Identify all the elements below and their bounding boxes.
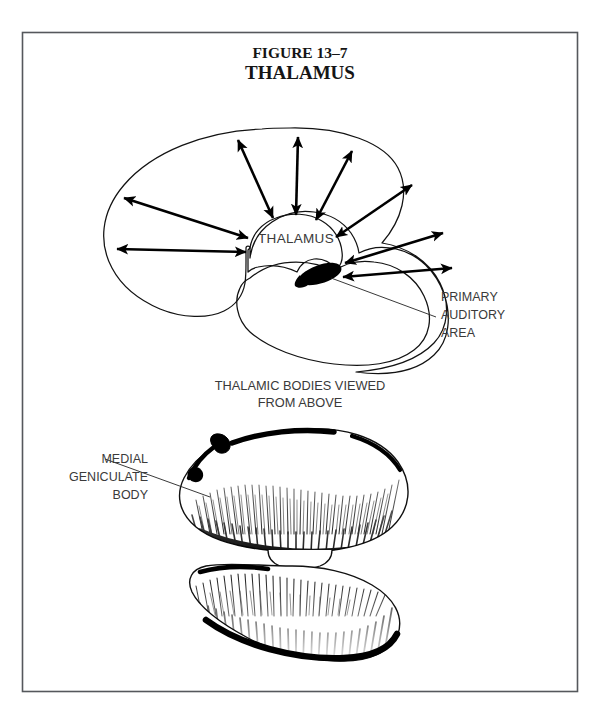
caption-line-1: THALAMIC BODIES VIEWED [215,378,386,393]
thalamus-center-label: THALAMUS [258,231,334,246]
figure-page: FIGURE 13–7 THALAMUS [0,0,601,715]
caption-line-2: FROM ABOVE [258,395,343,410]
primary-auditory-line-1: PRIMARY [441,290,498,304]
medial-geniculate-line-2: GENICULATE [69,470,148,484]
figure-number: FIGURE 13–7 [252,44,347,61]
medial-geniculate-line-3: BODY [113,488,149,502]
primary-auditory-line-2: AUDITORY [441,308,506,322]
thalamus-figure-canvas: FIGURE 13–7 THALAMUS [0,0,601,715]
medial-geniculate-line-1: MEDIAL [101,452,148,466]
primary-auditory-line-3: AREA [441,326,476,340]
figure-title: THALAMUS [245,62,355,83]
